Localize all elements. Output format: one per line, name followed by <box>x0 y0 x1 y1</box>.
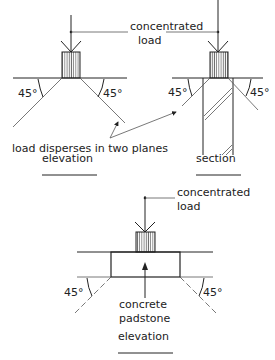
angle-label-right: 45° <box>203 286 223 299</box>
view-label-section: section <box>196 152 236 165</box>
padstone-arrow-icon <box>142 262 148 270</box>
angle-arc-left <box>38 79 43 97</box>
section-hatch <box>204 88 232 116</box>
padstone-label-line1: concrete <box>119 298 167 311</box>
dispersal-note: load disperses in two planes <box>12 112 176 155</box>
view-label-elevation: elevation <box>118 330 169 343</box>
angle-arc-left <box>87 278 92 296</box>
angle-label-left: 45° <box>18 87 38 100</box>
load-label-line1: concentrated <box>177 186 250 199</box>
dispersal-line-left <box>13 78 62 127</box>
load-label-line1: concentrated <box>130 20 203 33</box>
load-label-line2: load <box>138 34 162 47</box>
bearing-block <box>210 52 228 78</box>
padstone-label-line2: padstone <box>119 312 170 325</box>
load-dispersal-diagram: 45° 45° elevation concentrated load 45° … <box>0 0 275 360</box>
bottom-elevation: concentrated load 45° 45° concrete padst… <box>64 186 250 353</box>
angle-arc-left <box>188 79 192 96</box>
angle-label-left: 45° <box>64 286 84 299</box>
angle-label-left: 45° <box>168 86 188 99</box>
bearing-block <box>136 232 155 252</box>
angle-label-right: 45° <box>250 86 270 99</box>
pointer-line-right <box>110 112 176 138</box>
note-text: load disperses in two planes <box>12 142 168 155</box>
load-label-line2: load <box>177 200 201 213</box>
section-hatch <box>205 93 232 120</box>
bearing-block <box>62 52 80 78</box>
angle-label-right: 45° <box>103 87 123 100</box>
